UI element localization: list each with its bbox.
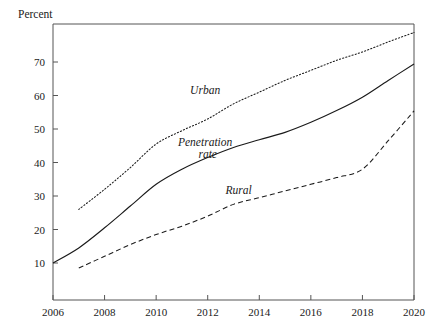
x-tick-label: 2012 [197, 306, 219, 318]
x-axis-ticks [53, 295, 414, 300]
plot-frame [53, 24, 414, 300]
y-tick-label: 60 [34, 90, 46, 102]
x-tick-label: 2014 [248, 306, 271, 318]
y-tick-label: 40 [34, 157, 46, 169]
y-axis-tick-labels: 10203040506070 [34, 56, 46, 269]
series-label-urban: Urban [190, 84, 220, 96]
x-tick-label: 2006 [42, 306, 65, 318]
series-label-rural: Rural [225, 184, 252, 196]
y-tick-label: 20 [34, 224, 46, 236]
series-line-penetration-rate [53, 64, 414, 263]
x-axis-tick-labels: 20062008201020122014201620182020 [42, 306, 426, 318]
series-label-rate: rate [198, 148, 217, 160]
y-tick-label: 50 [34, 123, 46, 135]
y-tick-label: 10 [34, 257, 46, 269]
y-axis-ticks [53, 62, 58, 263]
series-label-penetration: Penetration [177, 136, 233, 148]
y-tick-label: 70 [34, 56, 46, 68]
x-tick-label: 2020 [403, 306, 426, 318]
line-chart: 10203040506070 2006200820102012201420162… [0, 0, 444, 334]
series-line-urban [79, 33, 414, 210]
y-tick-label: 30 [34, 190, 46, 202]
series-lines [53, 33, 414, 268]
x-tick-label: 2010 [145, 306, 168, 318]
x-tick-label: 2008 [94, 306, 117, 318]
y-axis-caption: Percent [18, 8, 53, 20]
x-tick-label: 2018 [351, 306, 374, 318]
figure-container: 10203040506070 2006200820102012201420162… [0, 0, 444, 334]
x-tick-label: 2016 [300, 306, 323, 318]
